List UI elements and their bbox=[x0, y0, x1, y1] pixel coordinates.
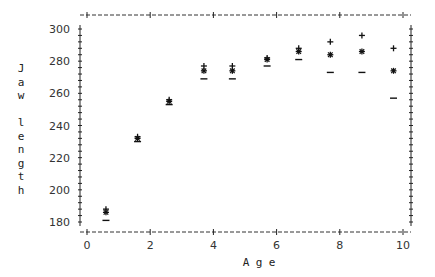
point-mean bbox=[229, 68, 235, 74]
y-tick-label: 280 bbox=[49, 55, 70, 68]
y-title-letter: w bbox=[18, 89, 25, 102]
y-tick-label: 300 bbox=[49, 23, 70, 36]
y-title-letter: n bbox=[18, 143, 25, 156]
point-mean bbox=[166, 98, 172, 104]
point-mean bbox=[391, 68, 397, 74]
plot-frame bbox=[80, 12, 411, 235]
y-tick-label: 200 bbox=[49, 184, 70, 197]
x-axis-title: Age bbox=[243, 256, 276, 269]
y-tick-label: 240 bbox=[49, 120, 70, 133]
y-title-letter: g bbox=[18, 157, 25, 170]
y-axis-title: Jawlength bbox=[18, 62, 25, 197]
x-tick-label: 10 bbox=[396, 239, 410, 252]
y-tick-label: 260 bbox=[49, 87, 70, 100]
x-tick-label: 0 bbox=[84, 239, 91, 252]
y-title-letter: J bbox=[18, 62, 25, 75]
y-axis: 180200220240260280300 bbox=[49, 23, 413, 229]
point-upper bbox=[327, 39, 333, 45]
x-title-letter: A bbox=[243, 256, 250, 269]
y-title-letter: a bbox=[18, 76, 25, 89]
x-tick-label: 2 bbox=[147, 239, 154, 252]
point-mean bbox=[359, 49, 365, 55]
point-upper bbox=[391, 45, 397, 51]
y-title-letter: e bbox=[18, 130, 25, 143]
x-title-letter: e bbox=[269, 256, 276, 269]
x-title-letter: g bbox=[256, 256, 263, 269]
point-mean bbox=[103, 209, 109, 215]
point-mean bbox=[135, 135, 141, 141]
point-mean bbox=[264, 57, 270, 63]
x-tick-label: 4 bbox=[210, 239, 217, 252]
scatter-chart: 180200220240260280300 0246810 Jawlength … bbox=[0, 0, 435, 277]
point-mean bbox=[327, 52, 333, 58]
y-title-letter: l bbox=[18, 116, 25, 129]
x-tick-label: 8 bbox=[336, 239, 343, 252]
y-title-letter: t bbox=[18, 170, 25, 183]
point-mean bbox=[201, 68, 207, 74]
x-axis: 0246810 bbox=[84, 239, 411, 252]
y-title-letter: h bbox=[18, 184, 25, 197]
y-tick-label: 220 bbox=[49, 152, 70, 165]
point-mean bbox=[296, 49, 302, 55]
x-tick-label: 6 bbox=[273, 239, 280, 252]
y-tick-label: 180 bbox=[49, 216, 70, 229]
data-marks bbox=[102, 32, 397, 220]
point-upper bbox=[359, 32, 365, 38]
